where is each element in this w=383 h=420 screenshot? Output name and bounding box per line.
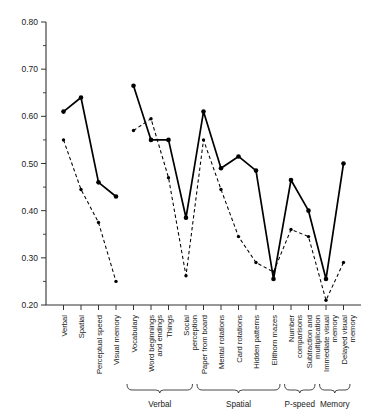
data-point [61, 109, 66, 114]
x-tick-label: Paper from board [200, 315, 209, 374]
data-point [289, 228, 292, 231]
data-point [341, 161, 346, 166]
data-point [202, 138, 205, 141]
data-point [149, 138, 154, 143]
data-point [132, 129, 135, 132]
data-point [97, 221, 100, 224]
x-tick-label: Mental rotations [217, 315, 226, 369]
x-tick-label: memory [330, 315, 339, 343]
data-point [271, 277, 276, 282]
x-tick-label: Visual memory [112, 315, 121, 365]
y-tick-label: 0.30 [21, 253, 38, 263]
y-tick-label: 0.60 [21, 111, 38, 121]
x-tick-label: Things [165, 315, 174, 338]
data-point [62, 138, 65, 141]
group-label: P-speed [285, 400, 316, 409]
data-point [201, 109, 206, 114]
data-point [324, 299, 327, 302]
group-label: Spatial [226, 400, 251, 409]
y-tick-label: 0.40 [21, 206, 38, 216]
x-tick-label: Spatial [77, 315, 86, 339]
chart-axes [46, 22, 361, 305]
y-tick-label: 0.20 [21, 300, 38, 310]
x-tick-label: Elithorn mazes [270, 315, 279, 365]
data-point [254, 168, 259, 173]
data-point [96, 180, 101, 185]
group-brace [127, 384, 193, 393]
x-tick-label: multiplication [313, 315, 322, 359]
data-point [184, 215, 189, 220]
data-point [114, 280, 117, 283]
data-point [219, 166, 224, 171]
data-point [306, 208, 311, 213]
data-point [219, 188, 222, 191]
x-tick-label: perception [190, 315, 199, 350]
data-point [149, 117, 152, 120]
series-line-dashed [64, 140, 117, 282]
x-tick-label: Perceptual speed [95, 315, 104, 374]
x-tick-label: Hidden patterns [252, 315, 261, 369]
x-tick-label: Vocabulary [130, 315, 139, 353]
x-tick-label: memory [348, 315, 357, 343]
y-tick-label: 0.50 [21, 159, 38, 169]
data-point [237, 235, 240, 238]
chart-container: 0.200.300.400.500.600.700.80VerbalSpatia… [0, 0, 383, 420]
series-line-dashed [134, 119, 344, 301]
data-point [289, 178, 294, 183]
x-tick-label: Verbal [60, 315, 69, 337]
data-point [166, 138, 171, 143]
series-line-solid [64, 97, 117, 196]
data-point [272, 270, 275, 273]
data-point [324, 277, 329, 282]
data-point [131, 83, 136, 88]
data-point [254, 261, 257, 264]
group-brace [320, 384, 351, 393]
y-tick-label: 0.80 [21, 17, 38, 27]
data-point [79, 188, 82, 191]
data-point [342, 261, 345, 264]
data-point [79, 95, 84, 100]
data-point [114, 194, 119, 199]
data-point [184, 274, 187, 277]
group-brace [285, 384, 316, 393]
data-point [167, 176, 170, 179]
data-point [307, 235, 310, 238]
y-tick-label: 0.70 [21, 64, 38, 74]
line-chart: 0.200.300.400.500.600.700.80VerbalSpatia… [0, 0, 383, 420]
series-line-solid [134, 86, 344, 279]
group-label: Verbal [148, 400, 171, 409]
group-brace [197, 384, 280, 393]
x-tick-label: Card rotations [235, 315, 244, 363]
x-tick-label: and endings [155, 315, 164, 357]
x-tick-label: comparisons [295, 315, 304, 358]
group-label: Memory [320, 400, 350, 409]
data-point [236, 154, 241, 159]
